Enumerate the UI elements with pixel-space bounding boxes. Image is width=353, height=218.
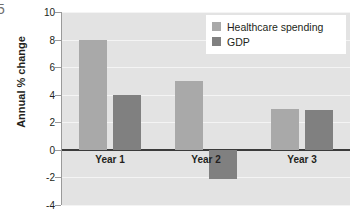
category-label-year-1: Year 1 <box>95 154 124 165</box>
y-tick-0 <box>55 150 61 151</box>
legend-label-gdp: GDP <box>227 36 250 48</box>
y-tick-label-2: 2 <box>49 117 55 128</box>
legend-swatch-gdp <box>212 37 221 46</box>
y-tick-6 <box>55 67 61 68</box>
y-tick-label--2: -2 <box>46 172 55 183</box>
y-tick-2 <box>55 122 61 123</box>
bar-year-2-healthcare-spending[interactable] <box>175 81 203 150</box>
y-tick-4 <box>55 95 61 96</box>
gridline--2 <box>62 177 350 178</box>
figure-number: 5 <box>0 1 5 17</box>
legend-item-healthcare-spending: Healthcare spending <box>212 19 341 34</box>
bar-year-1-gdp[interactable] <box>113 95 141 150</box>
y-tick-label-6: 6 <box>49 62 55 73</box>
legend-swatch-healthcare-spending <box>212 22 221 31</box>
y-axis-spine <box>61 12 62 205</box>
y-tick--4 <box>55 205 61 206</box>
y-tick--2 <box>55 177 61 178</box>
y-tick-10 <box>55 12 61 13</box>
category-label-year-3: Year 3 <box>287 154 316 165</box>
y-tick-label-0: 0 <box>49 144 55 155</box>
legend-item-gdp: GDP <box>212 34 341 49</box>
legend-label-healthcare-spending: Healthcare spending <box>227 21 323 33</box>
y-tick-label--4: -4 <box>46 200 55 211</box>
bar-year-3-healthcare-spending[interactable] <box>271 109 299 150</box>
y-axis-title-label: Annual % change <box>15 36 27 128</box>
y-tick-label-4: 4 <box>49 89 55 100</box>
gridline--4 <box>62 205 350 206</box>
chart-legend: Healthcare spending GDP <box>206 15 346 54</box>
category-label-year-2: Year 2 <box>191 154 220 165</box>
y-tick-label-10: 10 <box>44 7 55 18</box>
bar-year-1-healthcare-spending[interactable] <box>79 40 107 150</box>
y-axis-title: Annual % change <box>14 12 28 152</box>
y-tick-8 <box>55 40 61 41</box>
gridline-10 <box>62 12 350 13</box>
bar-year-3-gdp[interactable] <box>305 110 333 150</box>
y-tick-label-8: 8 <box>49 34 55 45</box>
